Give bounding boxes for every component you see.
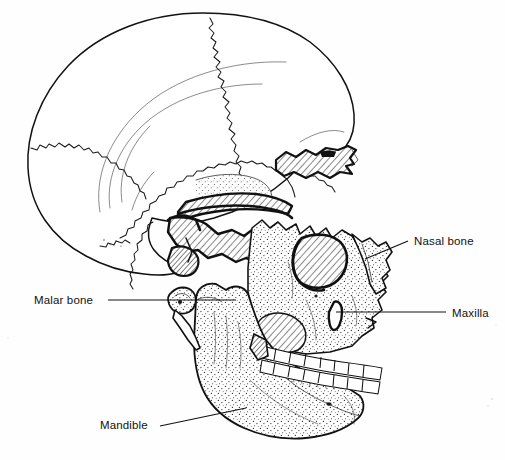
label-mandible: Mandible <box>100 419 148 431</box>
skull-diagram-figure: Nasal bone Maxilla Malar bone Mandible <box>0 0 505 460</box>
orbit-hatch <box>293 235 347 288</box>
label-nasal-bone: Nasal bone <box>414 235 474 247</box>
brow-shadow <box>320 151 336 158</box>
label-malar-bone: Malar bone <box>34 294 93 306</box>
mandibular-fossa <box>168 246 198 276</box>
skull-illustration: Nasal bone Maxilla Malar bone Mandible <box>0 0 505 460</box>
mental-foramen <box>326 402 331 405</box>
label-maxilla: Maxilla <box>452 307 489 319</box>
infraorbital-foramen <box>314 294 317 297</box>
